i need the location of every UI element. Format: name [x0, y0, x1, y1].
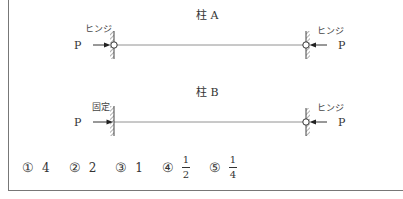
fraction-bar	[229, 167, 237, 168]
load-label-right-b: P	[338, 117, 345, 128]
choice-4[interactable]: ④ 1 2	[162, 155, 190, 180]
fraction: 1 4	[229, 155, 237, 180]
hinge-icon	[303, 119, 309, 125]
load-arrow-right-b	[310, 120, 328, 125]
column-b-title: 柱 B	[196, 87, 219, 98]
fixed-wall-support-b	[110, 106, 114, 136]
choice-1[interactable]: ① 4	[22, 160, 50, 175]
choice-marker: ②	[69, 160, 81, 175]
hinge-icon	[303, 42, 309, 48]
denominator: 2	[183, 170, 189, 180]
denominator: 4	[230, 170, 236, 180]
choice-value: 2	[89, 161, 97, 175]
answer-choices: ① 4 ② 2 ③ 1 ④ 1 2 ⑤ 1 4	[22, 155, 256, 180]
choice-5[interactable]: ⑤ 1 4	[209, 155, 237, 180]
right-hinge-label-a: ヒンジ	[317, 27, 344, 36]
column-a-title: 柱 A	[196, 10, 218, 21]
load-arrow-left-a	[93, 43, 111, 48]
column-b	[93, 106, 327, 136]
choice-3[interactable]: ③ 1	[115, 160, 143, 175]
choice-value: 1	[135, 161, 143, 175]
left-hinge-label-a: ヒンジ	[85, 25, 112, 34]
fraction-bar	[182, 167, 190, 168]
choice-marker: ①	[22, 160, 34, 175]
choice-marker: ③	[115, 160, 127, 175]
load-label-left-a: P	[74, 40, 81, 51]
right-hinge-label-b: ヒンジ	[317, 104, 344, 113]
fraction: 1 2	[182, 155, 190, 180]
load-arrow-right-a	[310, 43, 328, 48]
choice-2[interactable]: ② 2	[69, 160, 97, 175]
load-label-right-a: P	[338, 40, 345, 51]
fixed-support-label-b: 固定	[92, 103, 110, 112]
numerator: 1	[183, 155, 189, 165]
numerator: 1	[230, 155, 236, 165]
load-label-left-b: P	[74, 117, 81, 128]
choice-marker: ⑤	[209, 160, 221, 175]
hinge-icon	[111, 42, 117, 48]
choice-marker: ④	[162, 160, 174, 175]
column-a	[93, 31, 327, 59]
choice-value: 4	[42, 161, 50, 175]
